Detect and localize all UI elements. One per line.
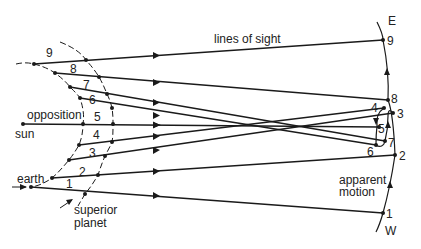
sun-dot [21,122,25,126]
sun-opposition-line [23,124,379,127]
superior-planet-label-2: planet [74,216,107,230]
segment-label-6: 6 [89,93,96,107]
east-label: E [388,14,396,28]
sky-label-9: 9 [387,34,394,48]
segment-label-3: 3 [89,146,96,160]
sky-label-7: 7 [388,136,395,150]
sky-label-5: 5 [378,122,385,136]
segment-label-9: 9 [46,46,53,60]
sky-label-2: 2 [399,149,406,163]
segment-label-1: 1 [66,177,73,191]
sky-label-8: 8 [391,92,398,106]
retrograde-motion-diagram: 9 8 7 6 5 4 3 2 1 9 8 4 3 5 7 6 2 1 line… [0,0,421,249]
superior-planet-label-1: superior [74,203,117,217]
earth-label: earth [17,172,44,186]
segment-label-4: 4 [93,128,100,142]
loop-arrow [385,121,391,128]
lines-of-sight-label: lines of sight [214,32,281,46]
apparent-motion-arrow [384,68,390,75]
planet-arrow-icon [66,199,73,205]
sight-arrowheads [153,52,160,199]
line-of-sight-8 [55,73,388,100]
sun-label: sun [15,127,34,141]
sky-label-1: 1 [386,207,393,221]
apparent-motion-label-2: motion [339,185,375,199]
sky-label-6: 6 [367,145,374,159]
apparent-motion-arrow [387,181,393,188]
west-label: W [385,224,397,238]
earth-position-dots [21,62,85,189]
opposition-label: opposition [27,108,82,122]
segment-label-5: 5 [94,110,101,124]
segment-label-2: 2 [79,165,86,179]
sky-label-3: 3 [397,107,404,121]
line-of-sight-3 [69,113,393,160]
sky-label-4: 4 [371,101,378,115]
segment-label-8: 8 [70,62,77,76]
segment-label-7: 7 [83,78,90,92]
